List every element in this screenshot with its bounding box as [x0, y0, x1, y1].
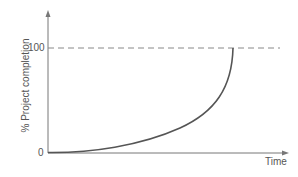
- y-tick-100: 100: [28, 42, 45, 53]
- x-axis-arrow-icon: [282, 151, 289, 156]
- chart-plot: [0, 0, 298, 177]
- completion-curve: [48, 48, 233, 153]
- x-axis-label: Time: [265, 156, 287, 167]
- y-axis-label: % Project completion: [20, 31, 31, 141]
- y-axis-arrow-icon: [46, 10, 51, 17]
- completion-chart: 100 0 % Project completion Time: [0, 0, 298, 177]
- y-tick-0: 0: [38, 147, 44, 158]
